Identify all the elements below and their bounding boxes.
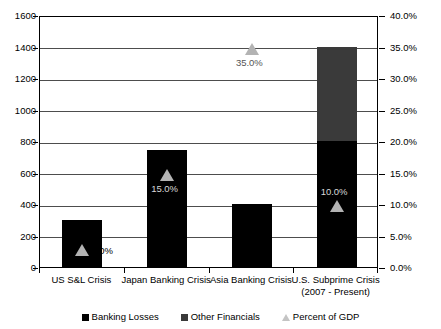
left-axis-tick-label: 200 (2, 232, 36, 242)
category-label-line2: (2007 - Present) (287, 286, 384, 298)
category-label: Asia Banking Crisis (203, 274, 300, 286)
right-axis-tick-label: 0.0% (390, 263, 436, 273)
category-tickmark (209, 268, 210, 273)
left-axis-tick-label: 1400 (2, 43, 36, 53)
percent-of-gdp-label: 15.0% (151, 184, 178, 194)
left-axis-tick-label: 400 (2, 200, 36, 210)
left-axis-tickmark (33, 111, 38, 112)
category-label: U.S. Subprime Crisis(2007 - Present) (287, 274, 384, 298)
left-axis: 02004006008001000120014001600 (0, 16, 36, 268)
left-axis-tick-label: 1200 (2, 74, 36, 84)
legend-label: Banking Losses (92, 312, 159, 322)
right-axis-tick-label: 40.0% (390, 11, 436, 21)
percent-of-gdp-marker (160, 169, 174, 181)
right-axis-tickmark (379, 16, 385, 17)
left-axis-tickmark (33, 205, 38, 206)
bar-segment (232, 204, 272, 267)
percent-of-gdp-marker (75, 244, 89, 256)
bar-segment (317, 47, 357, 142)
left-axis-tick-label: 600 (2, 169, 36, 179)
bar-column (232, 204, 272, 267)
category-axis-labels: US S&L CrisisJapan Banking CrisisAsia Ba… (39, 274, 378, 308)
legend-label: Other Financials (191, 312, 260, 322)
legend-item[interactable]: Percent of GDP (282, 312, 360, 322)
legend-item[interactable]: Banking Losses (82, 312, 159, 322)
right-axis-tick-label: 5.0% (390, 232, 436, 242)
category-tickmark (293, 268, 294, 273)
legend-square-icon (82, 314, 89, 321)
category-label: US S&L Crisis (33, 274, 130, 286)
legend-triangle-icon (282, 314, 290, 321)
right-axis-tick-label: 25.0% (390, 106, 436, 116)
chart-container: 02004006008001000120014001600 3.0%15.0%3… (0, 0, 441, 329)
category-tickmark (124, 268, 125, 273)
right-axis-tick-label: 15.0% (390, 169, 436, 179)
left-axis-tickmark (33, 174, 38, 175)
percent-of-gdp-marker (245, 43, 259, 55)
category-label-line1: Asia Banking Crisis (210, 274, 292, 285)
left-axis-tick-label: 0 (2, 263, 36, 273)
right-axis-tick-label: 35.0% (390, 43, 436, 53)
category-label-line1: U.S. Subprime Crisis (292, 274, 380, 285)
category-label-line1: US S&L Crisis (51, 274, 111, 285)
left-axis-tickmark (33, 79, 38, 80)
right-axis-tickmark (379, 205, 385, 206)
left-axis-tickmark (33, 16, 38, 17)
right-axis-tick-label: 10.0% (390, 200, 436, 210)
category-label-line1: Japan Banking Crisis (122, 274, 211, 285)
legend-square-icon (181, 314, 188, 321)
bar-column (317, 47, 357, 268)
plot-area: 3.0%15.0%35.0%10.0% (39, 16, 378, 268)
legend-label: Percent of GDP (293, 312, 360, 322)
left-axis-tickmark (33, 268, 38, 269)
right-axis-tickmark (379, 79, 385, 80)
category-tickmark (377, 268, 378, 273)
percent-of-gdp-label: 10.0% (321, 187, 348, 197)
right-axis-tick-label: 20.0% (390, 137, 436, 147)
left-axis-tickmark (33, 142, 38, 143)
percent-of-gdp-marker (330, 200, 344, 212)
right-axis-tickmark (379, 237, 385, 238)
chart-legend: Banking LossesOther FinancialsPercent of… (0, 309, 441, 325)
right-axis-tickmark (379, 48, 385, 49)
left-axis-tick-label: 1600 (2, 11, 36, 21)
category-label: Japan Banking Crisis (118, 274, 215, 286)
right-axis-tickmark (379, 268, 385, 269)
left-axis-tickmark (33, 48, 38, 49)
right-axis-tickmark (379, 111, 385, 112)
right-axis-tickmark (379, 174, 385, 175)
legend-item[interactable]: Other Financials (181, 312, 260, 322)
left-axis-tick-label: 800 (2, 137, 36, 147)
percent-of-gdp-label: 3.0% (91, 246, 113, 256)
right-axis-tickmark (379, 142, 385, 143)
category-tickmark (39, 268, 40, 273)
percent-of-gdp-label: 35.0% (236, 58, 263, 68)
left-axis-tick-label: 1000 (2, 106, 36, 116)
right-axis-tick-label: 30.0% (390, 74, 436, 84)
left-axis-tickmark (33, 237, 38, 238)
right-axis: 0.0%5.0%10.0%15.0%20.0%25.0%30.0%35.0%40… (390, 16, 440, 268)
